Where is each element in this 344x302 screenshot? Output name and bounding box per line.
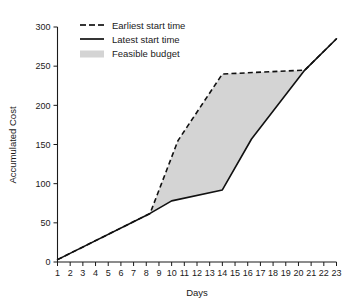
y-tick-label-150: 150 — [35, 140, 50, 150]
x-tick-label-21: 21 — [306, 268, 316, 278]
x-tick-label-14: 14 — [217, 268, 227, 278]
x-tick-label-8: 8 — [144, 268, 149, 278]
x-tick-label-3: 3 — [80, 268, 85, 278]
x-tick-label-11: 11 — [180, 268, 189, 278]
x-tick-label-4: 4 — [93, 268, 98, 278]
legend-label-latest: Latest start time — [112, 34, 180, 45]
x-tick-label-16: 16 — [243, 268, 253, 278]
x-tick-label-10: 10 — [167, 268, 177, 278]
x-tick-label-23: 23 — [331, 268, 341, 278]
x-tick-label-19: 19 — [281, 268, 291, 278]
chart-background — [0, 0, 344, 302]
y-tick-label-300: 300 — [35, 22, 50, 32]
x-tick-label-6: 6 — [118, 268, 123, 278]
y-tick-label-0: 0 — [45, 257, 50, 267]
accumulated-cost-chart: 050100150200250300 123456789101112131415… — [0, 0, 344, 302]
x-tick-label-1: 1 — [55, 268, 60, 278]
x-tick-label-18: 18 — [268, 268, 278, 278]
legend-marker-feasible-swatch — [80, 51, 104, 58]
x-tick-label-20: 20 — [293, 268, 303, 278]
legend-label-earliest: Earliest start time — [112, 20, 185, 31]
x-tick-label-22: 22 — [319, 268, 329, 278]
chart-container: 050100150200250300 123456789101112131415… — [0, 0, 344, 302]
x-tick-label-7: 7 — [131, 268, 136, 278]
y-axis-title: Accumulated Cost — [7, 106, 18, 183]
x-tick-label-12: 12 — [192, 268, 202, 278]
y-tick-label-100: 100 — [35, 179, 50, 189]
x-tick-label-5: 5 — [106, 268, 111, 278]
y-tick-label-250: 250 — [35, 61, 50, 71]
x-axis-title: Days — [186, 287, 208, 298]
y-tick-label-200: 200 — [35, 101, 50, 111]
x-tick-label-9: 9 — [156, 268, 161, 278]
x-tick-label-17: 17 — [255, 268, 265, 278]
x-tick-label-2: 2 — [68, 268, 73, 278]
y-tick-label-50: 50 — [40, 218, 50, 228]
x-tick-label-13: 13 — [205, 268, 215, 278]
x-tick-label-15: 15 — [230, 268, 240, 278]
legend-label-feasible: Feasible budget — [112, 48, 180, 59]
